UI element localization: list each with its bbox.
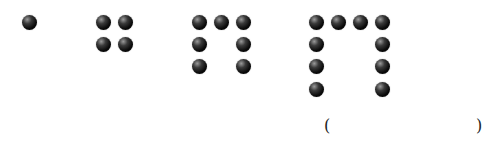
ball-icon <box>118 37 133 52</box>
ball-icon <box>236 15 251 30</box>
ball-icon <box>192 37 207 52</box>
answer-close-paren: ) <box>476 116 482 135</box>
ball-icon <box>192 15 207 30</box>
ball-icon <box>353 15 368 30</box>
ball-icon <box>214 15 229 30</box>
ball-icon <box>309 59 324 74</box>
ball-icon <box>96 37 111 52</box>
ball-icon <box>118 15 133 30</box>
ball-icon <box>236 59 251 74</box>
ball-icon <box>375 59 390 74</box>
ball-icon <box>96 15 111 30</box>
ball-icon <box>22 15 37 30</box>
ball-icon <box>192 59 207 74</box>
ball-icon <box>309 37 324 52</box>
ball-icon <box>236 37 251 52</box>
ball-icon <box>309 15 324 30</box>
ball-icon <box>375 82 390 97</box>
ball-icon <box>375 37 390 52</box>
ball-icon <box>375 15 390 30</box>
answer-blank <box>340 116 470 136</box>
answer-open-paren: ( <box>324 116 330 135</box>
ball-icon <box>331 15 346 30</box>
ball-icon <box>309 82 324 97</box>
